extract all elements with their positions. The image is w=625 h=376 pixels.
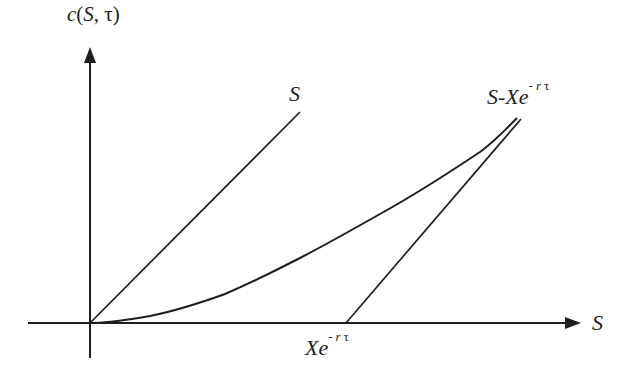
exp-r: r — [536, 78, 544, 93]
exp-r: r — [336, 329, 344, 344]
y-label-close: ) — [113, 2, 120, 26]
x-axis-arrow-icon — [565, 317, 581, 329]
diagram-canvas — [0, 0, 625, 376]
strike-pv-main: Xe — [305, 335, 328, 360]
call-value-curve — [90, 118, 517, 323]
exp-tau: τ — [344, 329, 352, 344]
strike-pv-exponent: -rτ — [328, 329, 352, 344]
exp-tau: τ — [544, 78, 552, 93]
exp-sign: - — [529, 78, 536, 93]
upper-bound-label: S — [289, 83, 300, 105]
y-axis-label: c(S, τ) — [67, 4, 120, 25]
lower-bound-line — [346, 119, 521, 323]
y-label-func: c — [67, 2, 76, 26]
y-label-var: S — [83, 2, 94, 26]
option-bounds-diagram: c(S, τ) S S-Xe-rτ Xe-rτ S — [0, 0, 625, 376]
strike-pv-label: Xe-rτ — [305, 337, 352, 359]
y-label-sep: , — [94, 2, 105, 26]
x-axis-label: S — [592, 312, 603, 334]
lower-bound-label: S-Xe-rτ — [487, 86, 552, 108]
exp-sign: - — [328, 329, 335, 344]
y-axis-arrow-icon — [84, 47, 96, 63]
y-label-tau: τ — [104, 2, 112, 26]
upper-bound-line — [90, 112, 300, 323]
lower-bound-label-main: S-Xe — [487, 84, 529, 109]
lower-bound-label-exponent: -rτ — [529, 78, 553, 93]
